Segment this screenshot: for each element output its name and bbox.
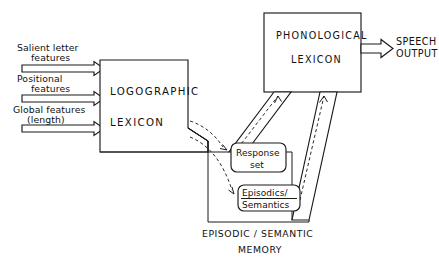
memory-caption: EPISODIC / SEMANTIC MEMORY	[202, 228, 313, 255]
speech-output-arrow	[361, 40, 393, 58]
episodics-line1: Episodics/	[242, 188, 288, 198]
block-diagram: Salient letter features Positional featu…	[0, 0, 439, 262]
input-label-salient-letter-features: Salient letter features	[17, 42, 79, 63]
speech-output-label: SPEECH OUTPUT	[396, 36, 438, 59]
input-label-global-line2: (length)	[27, 114, 65, 125]
response-set-box: Response set	[231, 143, 286, 172]
input-label-global-features: Global features (length)	[13, 104, 86, 125]
response-set-line1: Response	[236, 148, 280, 158]
input-label-positional-line2: features	[31, 83, 70, 94]
episodics-semantics-box: Episodics/ Semantics	[238, 185, 300, 211]
episodics-line2: Semantics	[242, 200, 290, 210]
phonological-label-line2: LEXICON	[291, 54, 342, 65]
input-label-positional-features: Positional features	[17, 73, 70, 94]
speech-output-line1: SPEECH	[396, 36, 437, 47]
phonological-lexicon-box: PHONOLOGICAL LEXICON	[264, 13, 368, 92]
figure-canvas: Salient letter features Positional featu…	[0, 0, 439, 262]
response-set-line2: set	[250, 160, 264, 170]
memory-caption-line1: EPISODIC / SEMANTIC	[202, 228, 313, 239]
logographic-label-line2: LEXICON	[110, 117, 164, 128]
memory-caption-line2: MEMORY	[238, 244, 282, 255]
logographic-label-line1: LOGOGRAPHIC	[110, 86, 200, 97]
speech-output-line2: OUTPUT	[396, 48, 438, 59]
phonological-label-line1: PHONOLOGICAL	[276, 30, 368, 41]
input-label-salient-line2: features	[31, 52, 70, 63]
